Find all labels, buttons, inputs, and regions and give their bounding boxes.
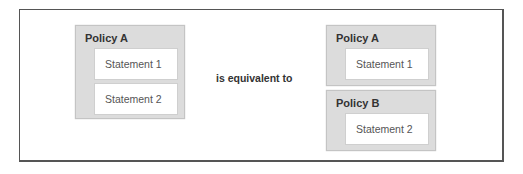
policy-title: Policy B	[336, 97, 379, 109]
statement-box: Statement 2	[94, 83, 178, 115]
policy-b-split: Policy B Statement 2	[326, 90, 436, 151]
policy-a-split: Policy A Statement 1	[326, 25, 436, 86]
equivalence-label: is equivalent to	[216, 72, 292, 84]
policy-title: Policy A	[85, 32, 128, 44]
policy-a-combined: Policy A Statement 1 Statement 2	[75, 25, 185, 119]
statement-label: Statement 1	[105, 58, 162, 70]
statement-label: Statement 1	[356, 58, 413, 70]
statement-label: Statement 2	[356, 123, 413, 135]
statement-box: Statement 2	[345, 113, 429, 145]
statement-box: Statement 1	[345, 48, 429, 80]
statement-box: Statement 1	[94, 48, 178, 80]
policy-title: Policy A	[336, 32, 379, 44]
statement-label: Statement 2	[105, 93, 162, 105]
